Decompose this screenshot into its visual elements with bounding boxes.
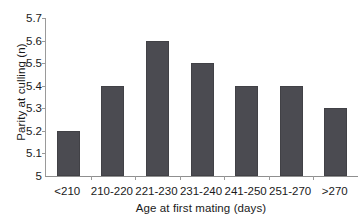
- y-axis-tick-label: 5.2: [18, 126, 42, 136]
- y-axis-tick-mark: [42, 18, 46, 19]
- plot-area: [45, 18, 358, 177]
- bar-slot: [224, 18, 269, 176]
- y-axis-tick-labels: 5.75.65.55.45.35.25.15: [18, 0, 42, 221]
- bar-series: [46, 18, 358, 176]
- bar-slot: [269, 18, 314, 176]
- x-axis-tick-marks: [46, 176, 358, 180]
- bar-slot: [46, 18, 91, 176]
- y-axis-tick-label: 5.3: [18, 103, 42, 113]
- y-axis-tick-label: 5: [18, 171, 42, 181]
- bar[interactable]: [280, 86, 303, 176]
- y-axis-tick-label: 5.1: [18, 148, 42, 158]
- x-axis-title: Age at first mating (days): [45, 201, 357, 215]
- x-axis-tick-mark: [135, 176, 136, 180]
- bar[interactable]: [324, 108, 347, 176]
- y-axis-tick-mark: [42, 108, 46, 109]
- bar-chart: Parity at culling (n) 5.75.65.55.45.35.2…: [0, 0, 362, 221]
- y-axis-tick-label: 5.4: [18, 81, 42, 91]
- bar-slot: [91, 18, 136, 176]
- y-axis-tick-label: 5.5: [18, 58, 42, 68]
- x-axis-tick-label: >270: [312, 184, 357, 198]
- bar[interactable]: [101, 86, 124, 176]
- y-axis-tick-mark: [42, 41, 46, 42]
- x-axis-tick-label: 210-220: [90, 184, 135, 198]
- x-axis-tick-label: 241-250: [223, 184, 268, 198]
- x-axis-tick-mark: [313, 176, 314, 180]
- bar-slot: [135, 18, 180, 176]
- x-axis-tick-label: 231-240: [179, 184, 224, 198]
- bar[interactable]: [146, 41, 169, 176]
- bar[interactable]: [57, 131, 80, 176]
- x-axis-tick-mark: [224, 176, 225, 180]
- x-axis-tick-label: <210: [45, 184, 90, 198]
- bar[interactable]: [235, 86, 258, 176]
- x-axis-tick-label: 251-270: [268, 184, 313, 198]
- bar-slot: [313, 18, 358, 176]
- y-axis-tick-label: 5.6: [18, 36, 42, 46]
- x-axis-tick-mark: [269, 176, 270, 180]
- x-axis-tick-labels: <210210-220221-230231-240241-250251-270>…: [45, 184, 357, 198]
- x-axis-tick-mark: [91, 176, 92, 180]
- y-axis-tick-mark: [42, 63, 46, 64]
- bar[interactable]: [191, 63, 214, 176]
- y-axis-tick-mark: [42, 86, 46, 87]
- bar-slot: [180, 18, 225, 176]
- x-axis-tick-label: 221-230: [134, 184, 179, 198]
- x-axis-tick-mark: [180, 176, 181, 180]
- y-axis-tick-mark: [42, 153, 46, 154]
- y-axis-tick-label: 5.7: [18, 13, 42, 23]
- y-axis-tick-mark: [42, 131, 46, 132]
